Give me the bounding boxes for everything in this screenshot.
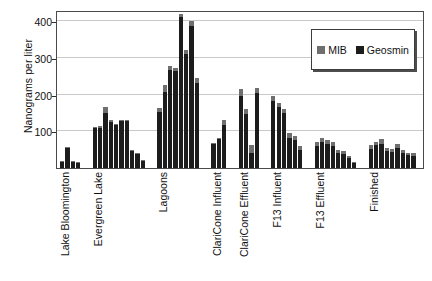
bar [141, 160, 145, 168]
bar-segment-geosmin [184, 54, 188, 168]
bar-segment-geosmin [374, 145, 378, 168]
bar-segment-geosmin [331, 146, 335, 168]
bar-segment-geosmin [125, 121, 129, 168]
x-axis-label: ClariCone Effluent [239, 172, 250, 257]
bar-segment-geosmin [325, 144, 329, 168]
bar-segment-geosmin [173, 71, 177, 168]
bar [385, 148, 389, 168]
bar-segment-mib [406, 153, 410, 156]
bar [401, 150, 405, 168]
bar-segment-mib [211, 143, 215, 144]
bar-segment-geosmin [130, 151, 134, 168]
legend-entry-mib: MIB [317, 45, 347, 55]
bar-segment-mib [65, 147, 69, 148]
bar-segment-mib [239, 89, 243, 96]
bar-segment-mib [374, 142, 378, 146]
bar-segment-geosmin [119, 121, 123, 168]
bar [336, 150, 340, 168]
bar [406, 153, 410, 168]
bar [189, 21, 193, 168]
bar-segment-geosmin [249, 153, 253, 168]
bar-segment-mib [282, 109, 286, 113]
bar [255, 88, 259, 168]
bar [60, 161, 64, 168]
bar-segment-mib [325, 140, 329, 144]
bar-segment-mib [401, 150, 405, 153]
bar-segment-mib [395, 144, 399, 148]
bar [271, 96, 275, 168]
bar-segment-geosmin [352, 163, 356, 168]
bar [98, 126, 102, 168]
bar-segment-mib [331, 142, 335, 146]
bar-segment-mib [390, 149, 394, 152]
bar-segment-geosmin [293, 140, 297, 168]
y-axis-tick-labels: 100200300400 [20, 0, 52, 175]
bar [76, 162, 80, 168]
y-tick-label: 300 [34, 54, 52, 64]
bar-segment-mib [298, 146, 302, 150]
bar [163, 85, 167, 168]
bar-segment-mib [315, 142, 319, 146]
x-axis-label: Evergreen Lake [93, 172, 104, 246]
bar [369, 145, 373, 168]
bar-segment-mib [163, 85, 167, 91]
bar-segment-geosmin [195, 83, 199, 168]
bar-segment-geosmin [163, 92, 167, 168]
legend-label-mib: MIB [328, 45, 347, 55]
bar-segment-geosmin [60, 162, 64, 168]
bar-segment-geosmin [282, 113, 286, 168]
bar [277, 103, 281, 168]
bar-segment-geosmin [411, 156, 415, 168]
bar-segment-geosmin [76, 163, 80, 169]
bar [125, 120, 129, 168]
bar-segment-mib [119, 120, 123, 121]
bar-segment-geosmin [298, 150, 302, 168]
bar-segment-mib [347, 156, 351, 158]
bar-segment-mib [293, 136, 297, 140]
bar-segment-geosmin [109, 122, 113, 168]
bar [135, 153, 139, 168]
bar [179, 14, 183, 168]
bar-segment-mib [379, 139, 383, 143]
bar [315, 142, 319, 168]
y-tick-label: 100 [34, 127, 52, 137]
y-tick-label: 400 [34, 17, 52, 27]
bar [395, 144, 399, 168]
chart-figure: Nanograms per liter 100200300400 MIBGeos… [0, 0, 432, 281]
bar-segment-mib [271, 96, 275, 101]
bar-segment-mib [189, 21, 193, 26]
legend-entries: MIBGeosmin [312, 45, 414, 55]
bar-segment-mib [336, 150, 340, 153]
bar-segment-geosmin [390, 152, 394, 168]
bar-segment-mib [369, 145, 373, 149]
bar [130, 150, 134, 168]
bar-segment-geosmin [71, 162, 75, 168]
bar [217, 138, 221, 168]
bar [244, 109, 248, 168]
bar [222, 120, 226, 168]
bar-segment-mib [130, 150, 134, 151]
bar-segment-geosmin [65, 148, 69, 168]
bar-segment-geosmin [255, 93, 259, 168]
bar-segment-mib [109, 120, 113, 121]
bar [374, 142, 378, 168]
x-axis-label: ClariCone Influent [212, 172, 223, 256]
bar-segment-geosmin [103, 113, 107, 168]
bar-segment-geosmin [271, 101, 275, 168]
bar-segment-mib [60, 161, 64, 162]
bar [379, 139, 383, 168]
bar [173, 68, 177, 168]
bar [157, 108, 161, 168]
bar-segment-mib [173, 68, 177, 71]
bar-segment-mib [93, 127, 97, 128]
bar [298, 146, 302, 168]
bar-segment-mib [385, 148, 389, 151]
legend-swatch-geosmin [356, 46, 364, 54]
bar-segment-mib [341, 151, 345, 154]
bar-segment-geosmin [141, 161, 145, 168]
bar-segment-mib [249, 145, 253, 153]
bar [109, 120, 113, 168]
bar [352, 162, 356, 168]
bar [287, 133, 291, 168]
bar-segment-geosmin [315, 146, 319, 168]
